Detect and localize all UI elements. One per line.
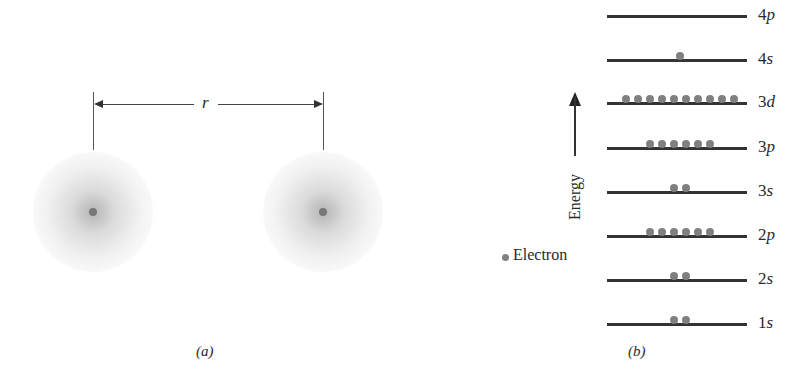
electron-dot <box>634 95 642 103</box>
principal-number: 3 <box>758 92 767 111</box>
electron-dot <box>694 140 702 148</box>
electron-dot <box>682 140 690 148</box>
energy-level-label: 3s <box>758 181 773 201</box>
energy-level-label: 2p <box>758 225 775 245</box>
electron-dot <box>646 228 654 236</box>
energy-level-label: 3p <box>758 137 775 157</box>
energy-level-1s <box>607 323 747 326</box>
electron-legend-label: Electron <box>513 246 567 264</box>
right-atom-nucleus <box>319 208 327 216</box>
energy-level-label: 4p <box>758 5 775 25</box>
electron-dot <box>646 95 654 103</box>
electron-dot <box>670 184 678 192</box>
orbital-letter: p <box>767 137 776 156</box>
electron-dot <box>670 95 678 103</box>
electron-dot <box>706 95 714 103</box>
energy-level-label: 3d <box>758 92 775 112</box>
arrowhead-left-icon <box>94 100 103 108</box>
electron-dot <box>682 272 690 280</box>
energy-level-label: 1s <box>758 313 773 333</box>
electron-dot <box>682 316 690 324</box>
electron-dot <box>730 95 738 103</box>
principal-number: 4 <box>758 49 767 68</box>
principal-number: 4 <box>758 5 767 24</box>
principal-number: 2 <box>758 269 767 288</box>
distance-arrow-left-shaft <box>98 104 194 105</box>
energy-level-3p <box>607 147 747 150</box>
electron-dot <box>682 228 690 236</box>
principal-number: 1 <box>758 313 767 332</box>
electron-dot <box>706 228 714 236</box>
electron-dot <box>670 140 678 148</box>
orbital-letter: s <box>767 269 774 288</box>
orbital-letter: s <box>767 49 774 68</box>
electron-dot <box>682 184 690 192</box>
energy-level-4p <box>607 15 747 18</box>
energy-level-2s <box>607 279 747 282</box>
left-atom-nucleus <box>89 208 97 216</box>
electron-dot <box>718 95 726 103</box>
energy-arrow <box>574 96 576 156</box>
electron-dot <box>658 228 666 236</box>
electron-dot <box>682 95 690 103</box>
caption-a: (a) <box>196 343 214 360</box>
orbital-letter: p <box>767 5 776 24</box>
arrowhead-right-icon <box>314 100 323 108</box>
electron-legend-icon <box>502 254 509 261</box>
energy-level-3s <box>607 191 747 194</box>
caption-b: (b) <box>628 343 646 360</box>
principal-number: 2 <box>758 225 767 244</box>
orbital-letter: s <box>767 181 774 200</box>
right-extension-line <box>323 92 324 150</box>
orbital-letter: p <box>767 225 776 244</box>
orbital-letter: d <box>767 92 776 111</box>
electron-dot <box>658 140 666 148</box>
energy-level-2p <box>607 235 747 238</box>
distance-arrow-right-shaft <box>218 104 316 105</box>
principal-number: 3 <box>758 181 767 200</box>
distance-label: r <box>202 93 209 113</box>
orbital-letter: s <box>767 313 774 332</box>
electron-dot <box>670 272 678 280</box>
electron-dot <box>646 140 654 148</box>
electron-dot <box>670 228 678 236</box>
principal-number: 3 <box>758 137 767 156</box>
electron-dot <box>676 52 684 60</box>
energy-axis-label: Energy <box>566 162 584 232</box>
energy-level-label: 4s <box>758 49 773 69</box>
electron-dot <box>694 95 702 103</box>
electron-dot <box>658 95 666 103</box>
electron-dot <box>622 95 630 103</box>
electron-dot <box>706 140 714 148</box>
energy-level-label: 2s <box>758 269 773 289</box>
electron-dot <box>694 228 702 236</box>
electron-dot <box>670 316 678 324</box>
